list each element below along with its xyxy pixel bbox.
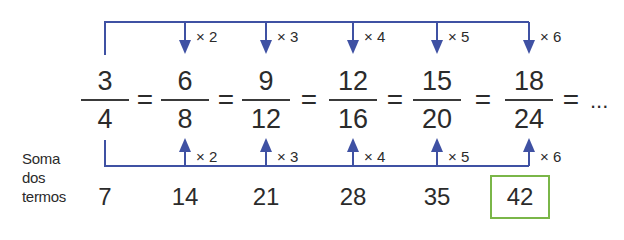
fraction-bar — [242, 99, 290, 101]
fraction: 18 24 — [503, 66, 555, 134]
denominator: 24 — [503, 104, 555, 134]
fraction: 9 12 — [240, 66, 292, 134]
denominator: 16 — [327, 104, 379, 134]
fraction: 15 20 — [411, 66, 463, 134]
fraction-bar — [329, 99, 377, 101]
fraction: 12 16 — [327, 66, 379, 134]
equals-sign: = — [383, 86, 407, 114]
bottom-multiplier: × 5 — [448, 149, 469, 165]
fraction-bar — [505, 99, 553, 101]
sum-label-line2: dos — [22, 169, 45, 186]
fraction: 6 8 — [159, 66, 211, 134]
bottom-multiplier: × 3 — [277, 149, 298, 165]
fraction-bar — [413, 99, 461, 101]
numerator: 15 — [411, 66, 463, 96]
denominator: 20 — [411, 104, 463, 134]
top-multiplier: × 4 — [364, 29, 385, 45]
sum-value: 35 — [412, 183, 462, 211]
denominator: 8 — [159, 104, 211, 134]
fraction-bar — [81, 99, 129, 101]
bottom-multiplier: × 6 — [540, 149, 561, 165]
top-multiplier: × 5 — [448, 29, 469, 45]
bottom-up-arrows — [179, 138, 535, 166]
denominator: 12 — [240, 104, 292, 134]
top-multiplier: × 3 — [277, 29, 298, 45]
top-multiplier: × 2 — [196, 29, 217, 45]
equals-sign: = — [559, 86, 583, 114]
sum-value: 21 — [241, 183, 291, 211]
equals-sign: = — [297, 86, 321, 114]
sum-label-line3: termos — [22, 188, 66, 205]
bottom-multiplier: × 4 — [364, 149, 385, 165]
ellipsis: ... — [590, 90, 608, 112]
fraction: 3 4 — [79, 66, 131, 134]
denominator: 4 — [79, 104, 131, 134]
sum-value: 7 — [80, 183, 130, 211]
sum-value: 28 — [328, 183, 378, 211]
sum-value-highlighted: 42 — [495, 183, 545, 211]
bottom-multiplier: × 2 — [196, 149, 217, 165]
fraction-bar — [161, 99, 209, 101]
sum-label-line1: Soma — [22, 150, 60, 167]
numerator: 12 — [327, 66, 379, 96]
numerator: 6 — [159, 66, 211, 96]
equals-sign: = — [214, 86, 238, 114]
numerator: 18 — [503, 66, 555, 96]
top-down-arrows — [179, 22, 535, 54]
top-multiplier: × 6 — [540, 29, 561, 45]
equals-sign: = — [471, 86, 495, 114]
equals-sign: = — [133, 86, 157, 114]
numerator: 3 — [79, 66, 131, 96]
numerator: 9 — [240, 66, 292, 96]
sum-value: 14 — [160, 183, 210, 211]
